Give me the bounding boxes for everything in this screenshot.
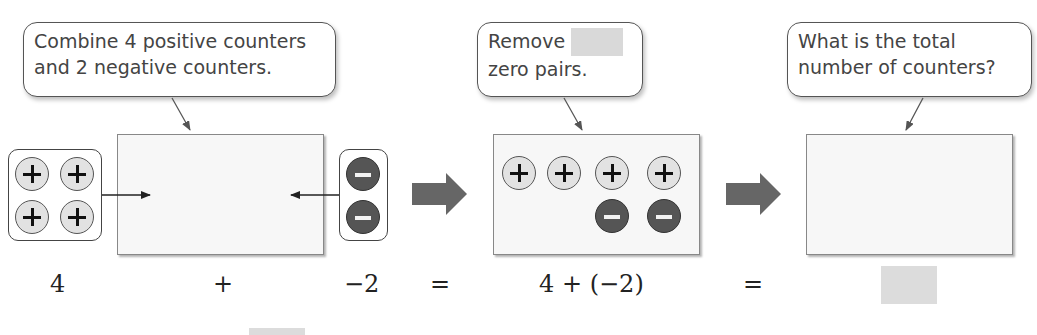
right-arrow-icon bbox=[412, 173, 468, 215]
plus-sign: + bbox=[213, 270, 233, 298]
equals-sign-1: = bbox=[430, 270, 450, 298]
equals-sign-2: = bbox=[743, 270, 763, 298]
right-arrow-icon bbox=[726, 173, 782, 215]
term-negative-2: −2 bbox=[344, 270, 379, 298]
result-answer-mask bbox=[881, 266, 937, 304]
answer-mask-bottom bbox=[249, 328, 305, 335]
term-4: 4 bbox=[50, 270, 65, 298]
expression: 4 + (−2) bbox=[539, 270, 644, 298]
